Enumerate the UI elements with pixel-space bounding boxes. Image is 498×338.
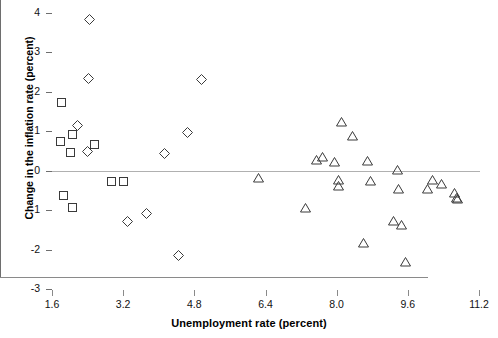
data-point-triangle	[422, 184, 433, 194]
data-point-triangle	[253, 173, 264, 183]
data-point-triangle	[333, 175, 344, 185]
data-point-diamond	[141, 208, 152, 219]
data-point-triangle	[449, 188, 460, 198]
data-point-diamond	[84, 14, 95, 25]
data-point-diamond	[159, 148, 170, 159]
data-point-triangle	[365, 176, 376, 186]
data-point-triangle	[392, 165, 403, 175]
x-tick-label: 4.8	[174, 299, 214, 310]
x-tick-mark	[337, 290, 338, 296]
data-point-diamond	[196, 74, 207, 85]
data-point-diamond	[182, 127, 193, 138]
data-point-diamond	[173, 250, 184, 261]
data-point-triangle	[396, 220, 407, 230]
data-point-triangle	[311, 155, 322, 165]
data-point-triangle	[336, 117, 347, 127]
data-point-triangle	[300, 203, 311, 213]
data-point-diamond	[122, 216, 133, 227]
data-point-square	[59, 191, 68, 200]
x-tick-mark	[123, 290, 124, 296]
data-point-square	[119, 177, 128, 186]
data-point-triangle	[451, 193, 462, 203]
data-point-triangle	[388, 216, 399, 226]
x-tick-mark	[479, 290, 480, 296]
data-point-triangle	[436, 179, 447, 189]
x-axis-title: Unemployment rate (percent)	[0, 317, 498, 329]
data-point-triangle	[358, 238, 369, 248]
data-point-square	[68, 203, 77, 212]
data-point-square	[68, 130, 77, 139]
data-point-triangle	[333, 181, 344, 191]
x-tick-label: 11.2	[459, 299, 498, 310]
data-point-triangle	[452, 194, 463, 204]
data-point-triangle	[400, 257, 411, 267]
data-point-square	[107, 177, 116, 186]
x-tick-label: 9.6	[388, 299, 428, 310]
x-tick-label: 3.2	[103, 299, 143, 310]
x-tick-mark	[408, 290, 409, 296]
x-tick-mark	[52, 290, 53, 296]
data-point-triangle	[329, 157, 340, 167]
y-axis-title: Change in the inflation rate (percent)	[23, 13, 35, 243]
data-point-square	[90, 140, 99, 149]
data-point-triangle	[393, 184, 404, 194]
y-tick-label: -3	[12, 283, 40, 294]
x-tick-label: 8.0	[317, 299, 357, 310]
data-point-triangle	[362, 156, 373, 166]
y-tick-label: -2	[12, 244, 40, 255]
data-point-triangle	[347, 131, 358, 141]
data-point-square	[56, 137, 65, 146]
y-axis-line	[0, 0, 1, 277]
data-point-diamond	[83, 73, 94, 84]
data-point-square	[66, 148, 75, 157]
data-point-triangle	[317, 152, 328, 162]
data-point-diamond	[72, 120, 83, 131]
x-tick-label: 1.6	[32, 299, 72, 310]
x-tick-mark	[266, 290, 267, 296]
x-tick-label: 6.4	[246, 299, 286, 310]
data-point-square	[57, 98, 66, 107]
plot-area	[52, 13, 479, 289]
data-point-diamond	[82, 146, 93, 157]
scatter-plot-figure: 43210-1-2-3 1.63.24.86.48.09.611.2 Unemp…	[0, 0, 498, 338]
data-point-triangle	[427, 175, 438, 185]
x-tick-mark	[194, 290, 195, 296]
